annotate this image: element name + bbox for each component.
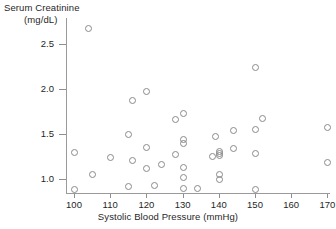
data-point (252, 186, 259, 193)
y-axis-tick (59, 89, 66, 90)
data-point (216, 152, 223, 159)
data-point (143, 165, 150, 172)
x-axis-tick-label: 100 (59, 199, 89, 210)
x-axis-tick-label: 170 (312, 199, 336, 210)
x-axis-tick (183, 194, 184, 198)
data-point (230, 145, 237, 152)
data-point (230, 127, 237, 134)
data-point (129, 97, 136, 104)
x-axis-tick-label: 120 (131, 199, 161, 210)
data-point (180, 164, 187, 171)
data-point (71, 149, 78, 156)
data-point (89, 171, 96, 178)
y-axis-title-line2: (mg/dL) (24, 14, 57, 26)
y-axis-tick-label: 1.5 (20, 128, 54, 139)
y-axis-tick-label: 2.0 (20, 83, 54, 94)
x-axis-tick (255, 194, 256, 198)
x-axis-tick (327, 194, 328, 198)
x-axis-tick (74, 194, 75, 198)
x-axis-tick-label: 150 (240, 199, 270, 210)
data-point (107, 154, 114, 161)
x-axis-tick (291, 194, 292, 198)
data-point (180, 185, 187, 192)
x-axis-tick-label: 110 (95, 199, 125, 210)
data-point (252, 64, 259, 71)
data-point (180, 174, 187, 181)
data-point (216, 176, 223, 183)
x-axis-tick-label: 160 (276, 199, 306, 210)
data-point (143, 144, 150, 151)
y-axis-tick-label: 2.5 (20, 38, 54, 49)
x-axis-tick (110, 194, 111, 198)
data-point (209, 153, 216, 160)
data-point (212, 133, 219, 140)
data-point (158, 161, 165, 168)
data-point (324, 159, 331, 166)
scatter-plot-figure: Serum Creatinine (mg/dL) 100110120130140… (0, 0, 336, 229)
data-point (125, 131, 132, 138)
x-axis-tick (219, 194, 220, 198)
data-point (324, 124, 331, 131)
data-point (125, 183, 132, 190)
y-axis-tick (59, 134, 66, 135)
y-axis-tick (59, 44, 66, 45)
data-point (143, 88, 150, 95)
y-axis-tick-label: 1.0 (20, 173, 54, 184)
y-axis-title-line1: Serum Creatinine (4, 2, 80, 14)
data-point (259, 115, 266, 122)
data-point (172, 151, 179, 158)
data-point (172, 116, 179, 123)
data-point (85, 25, 92, 32)
data-point (252, 150, 259, 157)
data-point (129, 157, 136, 164)
data-point (151, 182, 158, 189)
y-axis-tick (59, 179, 66, 180)
data-point (180, 140, 187, 147)
data-point (71, 186, 78, 193)
data-point (194, 185, 201, 192)
data-point (252, 126, 259, 133)
data-point (180, 110, 187, 117)
x-axis-tick (146, 194, 147, 198)
y-axis-line (66, 18, 67, 194)
x-axis-title: Systolic Blood Pressure (mmHg) (0, 211, 336, 222)
x-axis-tick-label: 130 (168, 199, 198, 210)
x-axis-tick-label: 140 (204, 199, 234, 210)
